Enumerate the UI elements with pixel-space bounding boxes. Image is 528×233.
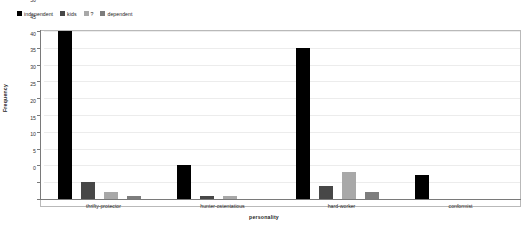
legend-item[interactable]: dependent bbox=[100, 11, 132, 17]
bar[interactable] bbox=[127, 196, 141, 199]
bar-group bbox=[415, 31, 507, 199]
plot-area bbox=[44, 31, 520, 199]
bar[interactable] bbox=[177, 165, 191, 199]
legend-item-label: kids bbox=[67, 11, 76, 17]
y-axis-tick-mark bbox=[37, 199, 40, 200]
y-axis-tick-label: 40 bbox=[22, 31, 36, 37]
y-axis-tick-mark bbox=[37, 98, 40, 99]
y-axis-tick-mark bbox=[37, 132, 40, 133]
legend-item[interactable]: ? bbox=[84, 11, 94, 17]
y-axis-tick-mark bbox=[37, 48, 40, 49]
y-axis-tick-label: 10 bbox=[22, 131, 36, 137]
y-axis-tick-mark bbox=[37, 182, 40, 183]
bar[interactable] bbox=[415, 175, 429, 199]
x-axis-tick-label: conformist bbox=[449, 203, 473, 210]
bar[interactable] bbox=[342, 172, 356, 199]
y-axis-line bbox=[40, 30, 41, 200]
bar[interactable] bbox=[365, 192, 379, 199]
bar[interactable] bbox=[319, 186, 333, 199]
y-axis-tick-label: 35 bbox=[22, 47, 36, 53]
bar[interactable] bbox=[223, 196, 237, 199]
y-axis-tick-label: 30 bbox=[22, 64, 36, 70]
y-axis-tick-label: 45 bbox=[22, 14, 36, 20]
y-axis-tick-mark bbox=[37, 65, 40, 66]
bar-chart: independentkids?dependent 50454035302520… bbox=[0, 0, 528, 233]
legend-item[interactable]: kids bbox=[60, 11, 76, 17]
y-axis-tick-mark bbox=[37, 81, 40, 82]
legend-item-label: ? bbox=[91, 11, 94, 17]
x-axis-tick-label: hunter-ostentatious bbox=[200, 203, 244, 210]
y-axis-tick-label: 20 bbox=[22, 98, 36, 104]
y-axis-title: Frequency bbox=[2, 84, 8, 112]
legend-swatch-icon bbox=[84, 11, 89, 16]
y-axis-tick-label: 25 bbox=[22, 81, 36, 87]
y-axis-tick-mark bbox=[37, 115, 40, 116]
y-axis-tick-labels: 50454035302520151050 bbox=[18, 0, 36, 170]
bar-group bbox=[58, 31, 150, 199]
bar[interactable] bbox=[104, 192, 118, 199]
bar[interactable] bbox=[81, 182, 95, 199]
x-axis-tick-label: thrifty-protector bbox=[86, 203, 121, 210]
legend-swatch-icon bbox=[60, 11, 65, 16]
y-axis-tick-mark bbox=[37, 149, 40, 150]
y-axis-tick-label: 5 bbox=[22, 148, 36, 154]
x-axis-line bbox=[40, 199, 521, 200]
legend-item-label: dependent bbox=[107, 11, 132, 17]
y-axis-tick-label: 50 bbox=[22, 0, 36, 3]
y-axis-tick-mark bbox=[37, 165, 40, 166]
bar[interactable] bbox=[296, 48, 310, 199]
y-axis-tick-mark bbox=[37, 31, 40, 32]
bar-group bbox=[177, 31, 269, 199]
y-axis-tick-label: 0 bbox=[22, 165, 36, 171]
x-axis-title: personality bbox=[0, 214, 528, 220]
x-axis-tick-label: hard-worker bbox=[328, 203, 356, 210]
bar-group bbox=[296, 31, 388, 199]
y-axis-tick-label: 15 bbox=[22, 115, 36, 121]
legend-swatch-icon bbox=[100, 11, 105, 16]
bar[interactable] bbox=[200, 196, 214, 199]
bar[interactable] bbox=[58, 31, 72, 199]
